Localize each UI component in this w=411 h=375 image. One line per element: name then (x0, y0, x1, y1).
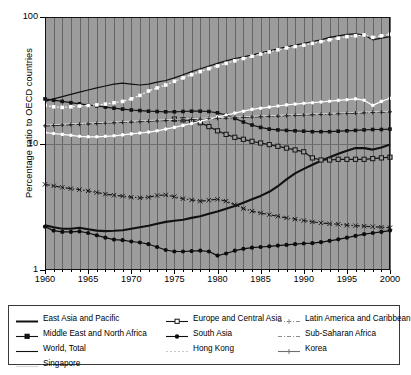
data-point (276, 48, 280, 52)
x-tick-mark (200, 270, 201, 272)
data-point (147, 89, 151, 93)
data-point (276, 114, 280, 118)
data-point (319, 221, 323, 225)
data-point (354, 97, 358, 101)
legend-item[interactable]: Sub-Saharan Africa (277, 326, 399, 341)
data-point (259, 126, 263, 130)
data-point (43, 225, 47, 229)
data-point (259, 141, 263, 145)
data-point (371, 128, 375, 132)
data-point (285, 103, 289, 107)
x-tick-mark (71, 270, 72, 272)
x-tick-mark (390, 270, 391, 274)
legend-item[interactable]: Europe and Central Asia (165, 311, 277, 326)
data-point (362, 128, 366, 132)
data-point (104, 135, 108, 139)
data-point (319, 158, 323, 162)
data-point (353, 234, 357, 238)
data-point (362, 33, 366, 37)
legend-item[interactable]: World, Total (15, 341, 165, 356)
legend-marker-icon (165, 313, 189, 324)
legend-marker-icon (165, 328, 189, 339)
data-point (319, 100, 323, 104)
data-point (328, 112, 332, 116)
x-tick-label: 1975 (154, 274, 194, 284)
legend-item[interactable]: South Asia (165, 326, 277, 341)
data-point (388, 155, 392, 159)
data-point (354, 129, 358, 133)
data-point (60, 106, 64, 110)
data-point (155, 110, 159, 114)
data-point (86, 231, 90, 235)
x-tick-mark (192, 270, 193, 272)
data-point (60, 100, 64, 104)
data-point (259, 106, 263, 110)
x-tick-mark (321, 270, 322, 272)
data-point (267, 212, 271, 216)
data-point (250, 54, 254, 58)
data-point (293, 113, 297, 117)
data-point (69, 101, 73, 105)
data-point (371, 231, 375, 235)
x-tick-mark (226, 270, 227, 272)
data-point (60, 185, 64, 189)
data-point (336, 36, 340, 40)
legend-item[interactable]: East Asia and Pacific (15, 311, 165, 326)
legend-item[interactable]: Middle East and North Africa (15, 326, 165, 341)
data-point (146, 242, 150, 246)
data-point (190, 249, 194, 253)
legend-label: Europe and Central Asia (193, 313, 282, 324)
data-point (276, 104, 280, 108)
legend-item[interactable]: Latin America and Caribbean (277, 311, 399, 326)
data-point (371, 110, 375, 114)
data-point (95, 233, 99, 237)
data-point (155, 245, 159, 249)
data-point (284, 146, 288, 150)
x-tick-mark (54, 270, 55, 272)
data-point (267, 244, 271, 248)
x-tick-mark (209, 270, 210, 272)
data-point (302, 113, 306, 117)
series-latin-america-and-caribbean (43, 182, 392, 230)
data-point (337, 99, 341, 103)
data-point (138, 94, 142, 98)
data-point (78, 122, 82, 126)
data-point (164, 110, 168, 114)
x-tick-mark (105, 270, 106, 272)
series-europe-and-central-asia (172, 117, 392, 162)
x-tick-label: 1965 (68, 274, 108, 284)
data-point (328, 130, 332, 134)
data-point (259, 115, 263, 119)
legend-item[interactable]: Singapore (15, 356, 165, 371)
legend-symbol (277, 316, 301, 327)
x-tick-mark (252, 270, 253, 272)
data-point (276, 128, 280, 132)
data-point (78, 135, 82, 139)
data-point (121, 133, 125, 137)
data-point (130, 97, 134, 101)
data-point (380, 128, 384, 132)
x-tick-label: 1985 (241, 274, 281, 284)
x-tick-mark (373, 270, 374, 272)
x-tick-mark (88, 270, 89, 274)
data-point (371, 36, 375, 40)
data-point (293, 148, 297, 152)
x-tick-mark (235, 270, 236, 272)
legend-item[interactable]: Hong Kong (165, 341, 277, 356)
x-tick-mark (338, 270, 339, 272)
legend-item[interactable]: Korea (277, 341, 399, 356)
data-point (155, 193, 159, 197)
data-point (104, 102, 108, 106)
legend-label: Hong Kong (193, 343, 234, 354)
x-tick-mark (157, 270, 158, 272)
legend-label: Middle East and North Africa (43, 328, 147, 339)
data-point (138, 109, 142, 113)
x-tick-mark (218, 270, 219, 274)
data-point (61, 133, 65, 137)
data-point (181, 124, 185, 128)
data-point (336, 129, 340, 133)
data-point (43, 131, 47, 135)
x-tick-mark (312, 270, 313, 272)
x-tick-mark (243, 270, 244, 272)
data-point (380, 100, 384, 104)
